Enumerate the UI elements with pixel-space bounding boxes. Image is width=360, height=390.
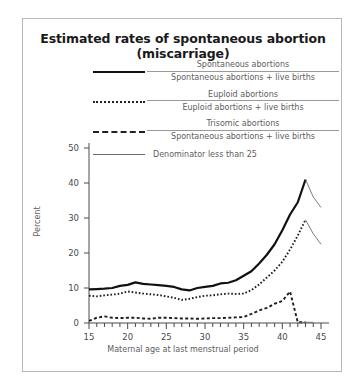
series-low-denominator-tail-dotted <box>306 220 321 245</box>
series-line-solid <box>89 180 306 291</box>
series-line-dashed <box>89 292 306 323</box>
series-low-denominator-tail-solid <box>306 180 321 208</box>
x-tick-label: 25 <box>153 332 179 342</box>
y-tick-label: 0 <box>59 318 79 328</box>
plot-area: Percent Maternal age at last menstrual p… <box>23 19 343 373</box>
x-tick-label: 40 <box>269 332 295 342</box>
y-tick-label: 40 <box>59 178 79 188</box>
y-tick-label: 30 <box>59 213 79 223</box>
y-axis-label: Percent <box>33 192 42 252</box>
x-axis-label: Maternal age at last menstrual period <box>23 345 343 354</box>
x-tick-label: 35 <box>231 332 257 342</box>
x-tick-label: 45 <box>308 332 334 342</box>
chart-frame: Estimated rates of spontaneous abortion … <box>22 18 342 372</box>
x-tick-label: 30 <box>192 332 218 342</box>
x-tick-label: 20 <box>115 332 141 342</box>
y-tick-label: 20 <box>59 248 79 258</box>
y-tick-label: 10 <box>59 283 79 293</box>
y-tick-label: 50 <box>59 143 79 153</box>
x-tick-label: 15 <box>76 332 102 342</box>
